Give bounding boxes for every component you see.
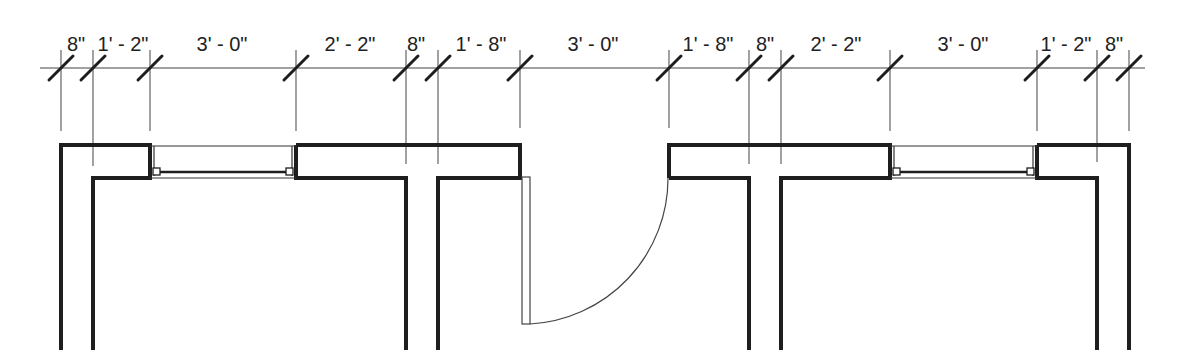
walls — [61, 145, 1129, 350]
dim-label-10: 2' - 2" — [811, 34, 862, 54]
wall-center-left — [296, 145, 520, 350]
wall-center-right — [669, 145, 890, 350]
dim-label-6: 1' - 8" — [456, 34, 507, 54]
wall-right-corner — [1037, 145, 1129, 350]
dim-label-5: 8" — [407, 34, 425, 54]
dim-label-2: 1' - 2" — [98, 34, 149, 54]
dim-label-12: 1' - 2" — [1041, 34, 1092, 54]
door-leaf — [522, 177, 530, 324]
dim-label-7: 3' - 0" — [568, 34, 619, 54]
dim-label-4: 2' - 2" — [325, 34, 376, 54]
dim-label-3: 3' - 0" — [197, 34, 248, 54]
window-left — [150, 146, 296, 178]
dim-label-8: 1' - 8" — [683, 34, 734, 54]
dim-label-13: 8" — [1105, 34, 1123, 54]
dim-label-9: 8" — [756, 34, 774, 54]
window-right — [890, 146, 1037, 178]
wall-left-corner — [61, 145, 150, 350]
door-swing-arc — [530, 178, 668, 324]
dim-label-11: 3' - 0" — [938, 34, 989, 54]
door-center — [522, 177, 668, 324]
dim-label-1: 8" — [67, 34, 85, 54]
